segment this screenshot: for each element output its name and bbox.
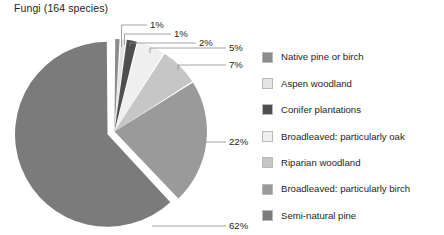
legend-color-swatch bbox=[262, 104, 273, 115]
legend-item: Semi-natural pine bbox=[262, 202, 444, 228]
chart-legend: Native pine or birchAspen woodlandConife… bbox=[262, 44, 444, 229]
pie-plot-area bbox=[0, 0, 265, 235]
pie-percentage-label: 1% bbox=[174, 29, 188, 39]
legend-color-swatch bbox=[262, 157, 273, 168]
legend-item: Conifer plantations bbox=[262, 97, 444, 123]
legend-item-label: Conifer plantations bbox=[281, 105, 361, 115]
legend-item: Broadleaved: particularly birch bbox=[262, 176, 444, 202]
legend-item-label: Broadleaved: particularly birch bbox=[281, 184, 410, 194]
legend-color-swatch bbox=[262, 78, 273, 89]
legend-item-label: Broadleaved: particularly oak bbox=[281, 132, 405, 142]
leader-line bbox=[178, 65, 226, 70]
legend-item-label: Native pine or birch bbox=[281, 52, 364, 62]
pie-percentage-label: 5% bbox=[229, 43, 243, 53]
pie-percentage-label: 1% bbox=[150, 20, 164, 30]
pie-percentage-label: 7% bbox=[229, 60, 243, 70]
legend-color-swatch bbox=[262, 210, 273, 221]
legend-item-label: Riparian woodland bbox=[281, 158, 360, 168]
legend-item-label: Aspen woodland bbox=[281, 79, 352, 89]
pie-percentage-label: 22% bbox=[229, 137, 248, 147]
legend-color-swatch bbox=[262, 52, 273, 63]
legend-item: Broadleaved: particularly oak bbox=[262, 123, 444, 149]
legend-item: Riparian woodland bbox=[262, 150, 444, 176]
legend-item-label: Semi-natural pine bbox=[281, 211, 356, 221]
pie-percentage-label: 62% bbox=[229, 221, 248, 231]
legend-color-swatch bbox=[262, 131, 273, 142]
legend-color-swatch bbox=[262, 184, 273, 195]
pie-chart-figure: Fungi (164 species) 1%1%2%5%7%22%62% Nat… bbox=[0, 0, 444, 235]
legend-item: Native pine or birch bbox=[262, 44, 444, 70]
pie-percentage-label: 2% bbox=[199, 38, 213, 48]
pie-svg bbox=[0, 0, 265, 235]
legend-item: Aspen woodland bbox=[262, 70, 444, 96]
